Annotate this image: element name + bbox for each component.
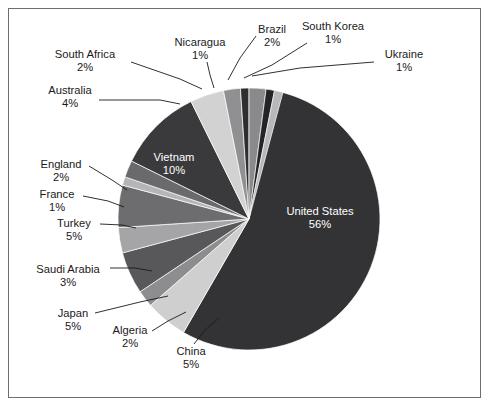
slice-label: Brazil2% [258, 23, 286, 48]
slice-label: France1% [40, 188, 75, 213]
slice-label-value: 5% [183, 358, 199, 370]
slice-label: Algeria2% [113, 324, 149, 349]
slice-label-value: 1% [325, 33, 341, 45]
slice-label-name: Australia [48, 84, 92, 96]
slice-label-name: Saudi Arabia [36, 263, 100, 275]
slice-label-name: Ukraine [385, 48, 424, 60]
slice-label-name: France [40, 188, 75, 200]
slice-label-name: Brazil [258, 23, 286, 35]
slice-label-name: Japan [58, 307, 88, 319]
slice-label-value: 3% [60, 276, 76, 288]
slice-label-value: 5% [66, 230, 82, 242]
slice-label-name: Algeria [113, 324, 149, 336]
leader-line [89, 166, 127, 190]
slice-label-name: United States [286, 205, 354, 217]
slice-label-value: 2% [122, 337, 138, 349]
leader-line [244, 43, 307, 78]
slice-label-name: China [176, 345, 206, 357]
leader-line [99, 100, 180, 104]
chart-figure: United States56%China5%Algeria2%Japan5%S… [0, 0, 491, 408]
slice-label-name: Turkey [57, 217, 91, 229]
slice-label-name: England [40, 158, 81, 170]
leader-line [83, 196, 124, 207]
slice-label: South Korea1% [302, 20, 365, 45]
slice-label: England2% [40, 158, 81, 183]
pie-chart-svg: United States56%China5%Algeria2%Japan5%S… [0, 0, 491, 408]
slice-label: Nicaragua1% [175, 36, 227, 61]
slice-label: Japan5% [58, 307, 88, 332]
slice-label-value: 2% [53, 171, 69, 183]
slice-label: Turkey5% [57, 217, 91, 242]
slice-label-value: 2% [264, 36, 280, 48]
leader-line [252, 62, 374, 76]
slice-label: Australia4% [48, 84, 92, 109]
slice-label-name: South Korea [302, 20, 365, 32]
slice-label: China5% [176, 345, 206, 370]
slice-label-value: 4% [62, 97, 78, 109]
slice-label-name: South Africa [55, 48, 116, 60]
leader-line [131, 62, 202, 89]
leader-line [207, 62, 214, 88]
pie-slices [118, 88, 380, 350]
slice-label-name: Nicaragua [175, 36, 227, 48]
slice-label: Ukraine1% [385, 48, 424, 73]
slice-label-value: 2% [77, 61, 93, 73]
slice-label-value: 10% [163, 164, 185, 176]
slice-label: South Africa2% [55, 48, 116, 73]
pie-chart: United States56%China5%Algeria2%Japan5%S… [0, 0, 491, 408]
slice-label-value: 1% [49, 201, 65, 213]
slice-label-value: 1% [192, 49, 208, 61]
slice-label-value: 1% [396, 61, 412, 73]
leader-line [228, 36, 256, 80]
slice-label-value: 5% [65, 320, 81, 332]
slice-label-name: Vietnam [154, 151, 195, 163]
slice-label: Saudi Arabia3% [36, 263, 100, 288]
slice-label-value: 56% [309, 218, 331, 230]
